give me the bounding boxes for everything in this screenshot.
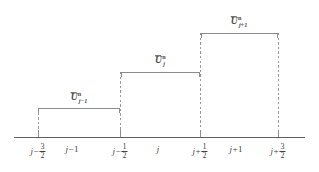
axis-label-j-minus-3-2-fraction: 3 2 [40, 143, 46, 161]
axis-label-j-plus-1-2-numerator: 1 [202, 143, 208, 151]
subscript-index-j-plus-1: j+1 [239, 21, 247, 28]
axis-label-j-minus-1-2-denominator: 2 [122, 151, 128, 160]
symbol-u-j-plus-1: U [231, 16, 238, 26]
axis-label-j-plus-1-whole: 1 [238, 145, 243, 154]
axis-label-j-minus-1-2-numerator: 1 [122, 143, 128, 151]
symbol-u-j-minus-1: U [71, 92, 78, 102]
axis-label-j-plus-3-2-op: + [273, 147, 278, 156]
axis-label-j-plus-1-op: + [232, 145, 237, 154]
cell-average-figure: Unj−1 Unj Unj+1 j− 3 2 j−1 j− 1 2 j j+ 1… [0, 0, 319, 172]
axis-label-j-minus-3-2-numerator: 3 [40, 143, 46, 151]
superscript-n-j-plus-1: n [238, 14, 241, 21]
cell-value-label-j-plus-1: Unj+1 [231, 17, 247, 27]
axis-label-j-plus-3-2-fraction: 3 2 [280, 143, 286, 161]
overbar-symbol-j: U [155, 56, 162, 66]
axis-label-j-minus-1-2: j− 1 2 [112, 143, 127, 161]
axis-label-j-minus-1-2-op: − [115, 147, 120, 156]
axis-label-j-plus-1-2-denominator: 2 [202, 151, 208, 160]
axis-label-j-plus-1-2-fraction: 1 2 [202, 143, 208, 161]
axis-label-j: j [157, 145, 160, 154]
axis-label-j-plus-1: j+1 [229, 145, 242, 154]
axis-tick-marks [39, 130, 279, 136]
axis-label-j-plus-1-2: j+ 1 2 [192, 143, 207, 161]
overbar-j [155, 55, 161, 56]
axis-label-j-plus-3-2-denominator: 2 [280, 151, 286, 160]
cell-boundary-lines [39, 33, 279, 137]
superscript-n-j: n [162, 53, 165, 60]
cell-value-label-j-minus-1: Unj−1 [71, 93, 88, 103]
axis-label-j-minus-1: j−1 [65, 145, 78, 154]
axis-label-j-minus-3-2: j− 3 2 [30, 143, 45, 161]
axis-label-j-minus-3-2-op: − [33, 147, 38, 156]
axis-label-j-minus-1-whole: 1 [74, 145, 79, 154]
axis-label-j-plus-3-2: j+ 3 2 [270, 143, 285, 161]
overbar-symbol-j-plus-1: U [231, 17, 238, 27]
axis-label-j-plus-3-2-numerator: 3 [280, 143, 286, 151]
superscript-n-j-minus-1: n [78, 90, 81, 97]
axis-label-j-plus-1-2-op: + [195, 147, 200, 156]
axis-label-j-minus-3-2-denominator: 2 [40, 151, 46, 160]
overbar-j-minus-1 [71, 92, 77, 93]
axis-label-j-minus-1-2-fraction: 1 2 [122, 143, 128, 161]
overbar-j-plus-1 [231, 16, 237, 17]
axis-label-j-minus-1-op: − [68, 145, 73, 154]
subscript-index-j: j [163, 60, 165, 67]
cell-value-label-j: Unj [155, 56, 165, 66]
axis-label-j-var: j [157, 145, 160, 154]
overbar-symbol-j-minus-1: U [71, 93, 78, 103]
symbol-u-j: U [155, 55, 162, 65]
subscript-index-j-minus-1: j−1 [79, 97, 88, 104]
